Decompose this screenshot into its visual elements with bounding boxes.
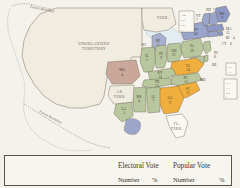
label-votes-OH: 21 bbox=[172, 53, 176, 57]
label-state-PA: PA bbox=[190, 44, 195, 48]
label-ar-terr-line2: TERR. bbox=[114, 95, 127, 99]
state-shape-MO bbox=[106, 60, 140, 84]
subheader-electoral-percent: % bbox=[152, 176, 158, 183]
state-shape-CT bbox=[208, 31, 218, 37]
label-votes-MS: 4 bbox=[138, 99, 140, 103]
results-table: Electoral Vote Popular Vote Number % Num… bbox=[4, 155, 232, 186]
label-votes-IN: 9 bbox=[160, 56, 162, 60]
gulf-water bbox=[124, 118, 141, 134]
label-state-GA: GA bbox=[167, 96, 173, 100]
label-votes-MO: 4 bbox=[121, 73, 123, 77]
election-map: UNORGANIZED TERRITORY MI TERR. AR. TERR.… bbox=[0, 0, 240, 152]
label-votes-MI: 3 bbox=[157, 43, 159, 47]
label-state-MO: MO bbox=[119, 68, 125, 72]
label-votes-NJ: 8 bbox=[214, 55, 216, 59]
label-state-MD: MD bbox=[200, 78, 206, 82]
subheader-popular-number: Number bbox=[173, 176, 195, 183]
label-state-DE: DE bbox=[212, 63, 217, 67]
state-shape-RI bbox=[218, 31, 223, 36]
label-fl-terr-line1: FL. bbox=[174, 122, 181, 126]
label-votes-IL: 5 bbox=[146, 58, 148, 62]
label-votes-ME: 9 bbox=[221, 16, 223, 20]
header-popular-vote: Popular Vote bbox=[173, 162, 210, 170]
label-fl-terr-line2: TERR. bbox=[171, 127, 184, 131]
label-votes-VA: 24 bbox=[186, 68, 190, 72]
header-electoral-vote: Electoral Vote bbox=[118, 162, 159, 170]
label-votes-GA: 9 bbox=[169, 101, 171, 105]
state-shape-DE bbox=[204, 55, 208, 62]
label-votes-VT: 7 bbox=[196, 18, 198, 22]
label-state-NH: NH bbox=[206, 8, 211, 12]
label-mi-terr-line1: MI bbox=[141, 43, 147, 47]
label-votes-RI: 4 bbox=[233, 36, 235, 40]
label-votes-PA: 28 bbox=[190, 49, 194, 53]
label-votes-SC: 11 bbox=[186, 91, 190, 95]
label-votes-CT: 8 bbox=[230, 42, 232, 46]
label-votes-MA: 15 bbox=[226, 31, 230, 35]
inset-northeast-row-0: A 26 bbox=[181, 14, 187, 17]
label-unorganized-line1: UNORGANIZED bbox=[78, 42, 110, 46]
label-votes-NH: 7 bbox=[213, 8, 215, 12]
label-ar-terr-line1: AR. bbox=[116, 90, 123, 94]
label-unorganized-line2: TERRITORY bbox=[82, 47, 106, 51]
subheader-popular-percent: % bbox=[219, 176, 225, 183]
label-mi-terr-line2: TERR. bbox=[157, 16, 170, 20]
label-votes-AL: 7 bbox=[152, 99, 154, 103]
label-votes-NY: 42 bbox=[194, 32, 198, 36]
label-votes-KY: 14 bbox=[158, 75, 162, 79]
label-votes-NC: 15 bbox=[184, 80, 188, 84]
label-votes-LA: 5 bbox=[123, 111, 125, 115]
subheader-electoral-number: Number bbox=[118, 176, 140, 183]
label-votes-TN: 15 bbox=[155, 84, 159, 88]
